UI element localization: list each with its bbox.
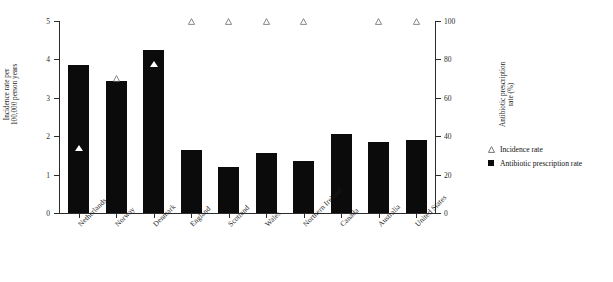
incidence-marker-australia	[375, 18, 382, 25]
x-tick-3	[191, 214, 192, 218]
incidence-marker-united-states	[413, 18, 420, 25]
legend-label-incidence-rate: Incidence rate	[500, 145, 543, 154]
x-tick-8	[379, 214, 380, 218]
left-tick-label-3: 3	[28, 94, 50, 103]
right-tick-label-20: 20	[444, 171, 470, 180]
x-tick-6	[304, 214, 305, 218]
right-tick-label-80: 80	[444, 55, 470, 64]
incidence-marker-northern-ireland	[300, 18, 307, 25]
chart-legend: Incidence rate Antibiotic prescription r…	[488, 142, 582, 170]
right-tick-20	[436, 175, 441, 176]
right-tick-0	[436, 213, 441, 214]
legend-label-antibiotic-prescription-rate: Antibiotic prescription rate	[500, 159, 582, 168]
incidence-marker-scotland	[225, 18, 232, 25]
left-tick-label-5: 5	[28, 17, 50, 26]
x-tick-5	[266, 214, 267, 218]
right-tick-label-100: 100	[444, 17, 470, 26]
x-tick-4	[229, 214, 230, 218]
right-tick-80	[436, 59, 441, 60]
left-tick-0	[54, 213, 59, 214]
left-tick-1	[54, 175, 59, 176]
incidence-marker-norway	[113, 75, 120, 82]
right-tick-40	[436, 136, 441, 137]
incidence-marker-netherlands	[75, 145, 83, 151]
x-tick-7	[341, 214, 342, 218]
legend-item-antibiotic-prescription-rate: Antibiotic prescription rate	[488, 156, 582, 170]
x-tick-0	[79, 214, 80, 218]
x-tick-2	[154, 214, 155, 218]
right-tick-60	[436, 98, 441, 99]
left-tick-2	[54, 136, 59, 137]
filled-square-icon	[488, 160, 499, 166]
x-tick-1	[116, 214, 117, 218]
markers-layer	[60, 21, 435, 213]
x-tick-9	[416, 214, 417, 218]
left-tick-3	[54, 98, 59, 99]
left-axis-title: Incidence rate per 100,000 person years	[3, 39, 20, 149]
right-axis-title: Antibiotic prescription rate (%)	[499, 39, 516, 149]
right-tick-label-60: 60	[444, 94, 470, 103]
right-tick-100	[436, 21, 441, 22]
left-tick-5	[54, 21, 59, 22]
left-tick-label-4: 4	[28, 55, 50, 64]
legend-item-incidence-rate: Incidence rate	[488, 142, 582, 156]
right-tick-label-40: 40	[444, 132, 470, 141]
chart-figure: 5 4 3 2 1 0 100 80 60 40 20 0 Incidence …	[0, 0, 613, 282]
open-triangle-icon	[488, 146, 499, 153]
incidence-marker-england	[188, 18, 195, 25]
incidence-marker-denmark	[150, 61, 158, 67]
left-tick-label-1: 1	[28, 171, 50, 180]
x-axis-labels: NetherlandsNorwayDenmarkEnglandScotlandW…	[0, 216, 613, 282]
left-tick-label-2: 2	[28, 132, 50, 141]
incidence-marker-wales	[263, 18, 270, 25]
left-tick-4	[54, 59, 59, 60]
plot-area	[60, 21, 435, 213]
right-axis-line	[435, 21, 436, 214]
